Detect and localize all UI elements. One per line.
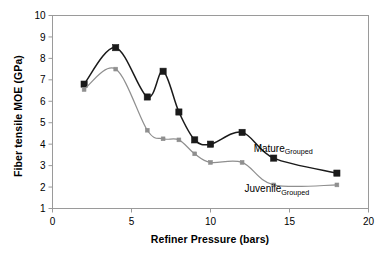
data-point-marker [82,88,86,92]
data-point-marker [335,183,339,187]
data-point-marker [113,45,119,51]
data-point-marker [176,109,182,115]
series-mature [81,45,340,177]
series-label-mature: MatureGrouped [254,143,313,156]
data-point-marker [239,129,245,135]
tick-labels: 1234567891005101520 [34,10,374,226]
data-series [81,45,340,187]
tick-marks [49,16,369,213]
data-point-marker [240,160,244,164]
data-point-marker [193,152,197,156]
data-point-marker [160,68,166,74]
y-tick-label: 9 [40,32,46,43]
x-tick-label: 15 [284,216,296,227]
data-point-marker [144,94,150,100]
y-tick-label: 5 [40,117,46,128]
data-point-marker [161,137,165,141]
data-point-marker [192,137,198,143]
y-tick-label: 10 [34,10,46,21]
data-point-marker [114,67,118,71]
y-tick-label: 8 [40,53,46,64]
y-tick-label: 6 [40,96,46,107]
x-axis-title: Refiner Pressure (bars) [52,233,368,245]
y-tick-label: 2 [40,182,46,193]
data-point-marker [81,81,87,87]
data-point-marker [207,141,213,147]
data-point-marker [209,160,213,164]
y-tick-label: 3 [40,160,46,171]
x-tick-label: 5 [129,216,135,227]
y-tick-label: 4 [40,139,46,150]
series-juvenile [82,67,339,187]
x-tick-label: 0 [50,216,56,227]
axes [53,16,369,209]
y-axis-title: Fiber tensile MOE (GPa) [12,41,24,191]
x-tick-label: 10 [205,216,217,227]
x-tick-label: 20 [363,216,375,227]
chart-plot-area: 1234567891005101520 MatureGroupedJuvenil… [0,0,389,260]
chart-figure: Fiber tensile MOE (GPa) Refiner Pressure… [0,0,389,260]
series-annotations: MatureGroupedJuvenileGrouped [245,143,313,197]
data-point-marker [177,138,181,142]
y-tick-label: 1 [40,203,46,214]
data-point-marker [334,170,340,176]
series-label-juvenile: JuvenileGrouped [245,183,310,196]
data-point-marker [271,155,277,161]
y-tick-label: 7 [40,74,46,85]
data-point-marker [145,128,149,132]
